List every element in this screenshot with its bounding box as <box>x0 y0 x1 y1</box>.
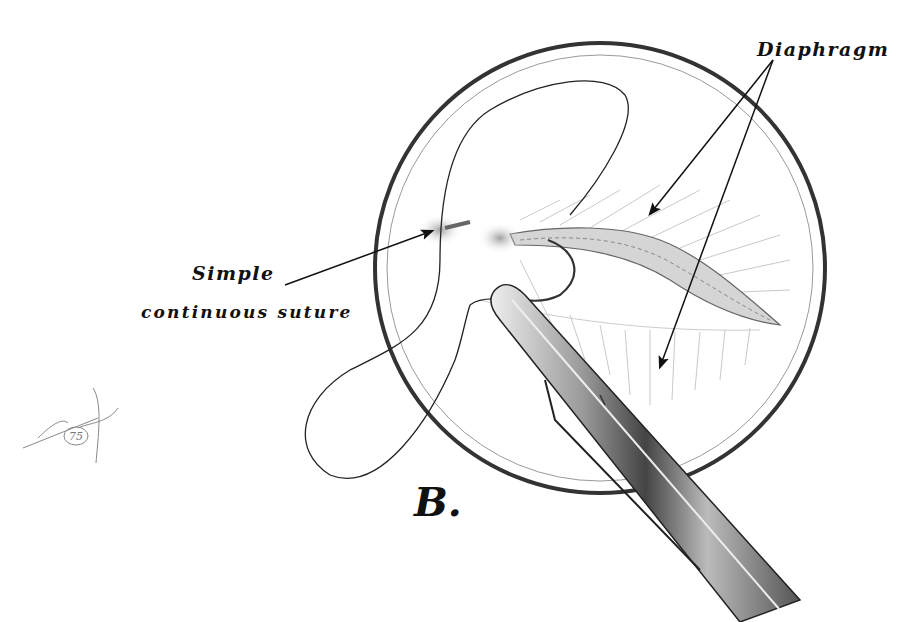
panel-label: B. <box>414 478 462 525</box>
needle-holder-forceps <box>491 285 800 622</box>
arrow-suture <box>285 231 432 285</box>
suture-knots <box>418 214 522 254</box>
artist-signature: 75 <box>18 378 158 468</box>
medical-illustration: Diaphragm Simple continuous suture B. 75 <box>0 0 914 622</box>
signature-year: 75 <box>69 430 83 443</box>
arrow-diaphragm-upper <box>650 60 773 214</box>
label-simple: Simple <box>192 262 275 284</box>
label-continuous-suture: continuous suture <box>141 302 353 322</box>
label-diaphragm: Diaphragm <box>757 38 889 60</box>
illustration-canvas <box>0 0 914 622</box>
